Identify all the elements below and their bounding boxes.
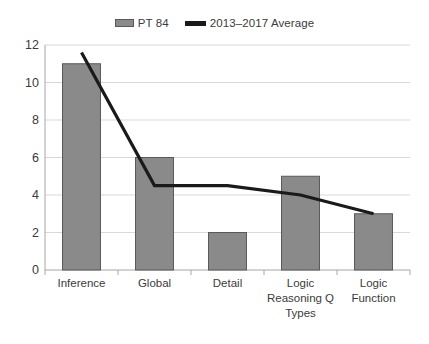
x-tick-label: LogicFunction [337,276,410,342]
y-tick-label: 4 [5,189,39,202]
average-line-series [82,53,374,214]
bar-series [63,64,393,270]
plot-svg [45,45,410,270]
y-tick-label: 10 [5,76,39,89]
legend-label-average: 2013–2017 Average [210,17,314,29]
legend-label-pt84: PT 84 [138,17,169,29]
x-axis-ticks [45,270,410,275]
y-tick-label: 6 [5,151,39,164]
y-tick-label: 8 [5,114,39,127]
bar [282,176,320,270]
x-tick-label: Inference [45,276,118,342]
y-tick-label: 0 [5,264,39,277]
bar [355,214,393,270]
bar [63,64,101,270]
x-tick-label: LogicReasoning QTypes [264,276,337,342]
bar [136,158,174,271]
legend-item-average: 2013–2017 Average [185,17,314,29]
line-swatch-icon [185,21,206,26]
bar-swatch-icon [115,19,134,27]
y-tick-label: 12 [5,39,39,52]
legend-item-pt84: PT 84 [115,17,169,29]
x-axis: InferenceGlobalDetailLogicReasoning QTyp… [45,276,410,342]
y-axis: 024681012 [0,45,39,270]
x-tick-label: Global [118,276,191,342]
y-tick-label: 2 [5,226,39,239]
plot-area [45,45,410,270]
x-tick-label: Detail [191,276,264,342]
bar [209,233,247,271]
bar-line-chart: PT 84 2013–2017 Average 024681012 Infere… [0,0,429,344]
chart-legend: PT 84 2013–2017 Average [0,12,429,34]
